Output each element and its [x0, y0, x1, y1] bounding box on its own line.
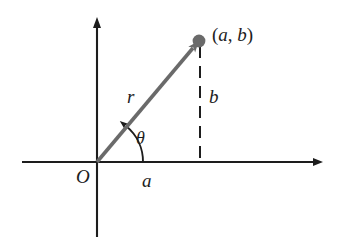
- point-y-label: b: [237, 24, 247, 45]
- coordinate-diagram-figure: (a, b) b r θ O a: [0, 0, 340, 246]
- origin-label: O: [76, 167, 90, 186]
- radius-vector: [97, 48, 193, 162]
- point-coordinates-label: (a, b): [212, 25, 253, 44]
- b-component-label: b: [209, 87, 219, 106]
- a-component-label: a: [142, 171, 152, 190]
- r-radius-label: r: [127, 87, 134, 106]
- point-marker: [193, 35, 206, 48]
- diagram-canvas: [0, 0, 340, 246]
- point-separator: ,: [228, 24, 238, 45]
- theta-angle-label: θ: [136, 129, 145, 147]
- point-x-label: a: [218, 24, 228, 45]
- paren-close: ): [247, 24, 253, 45]
